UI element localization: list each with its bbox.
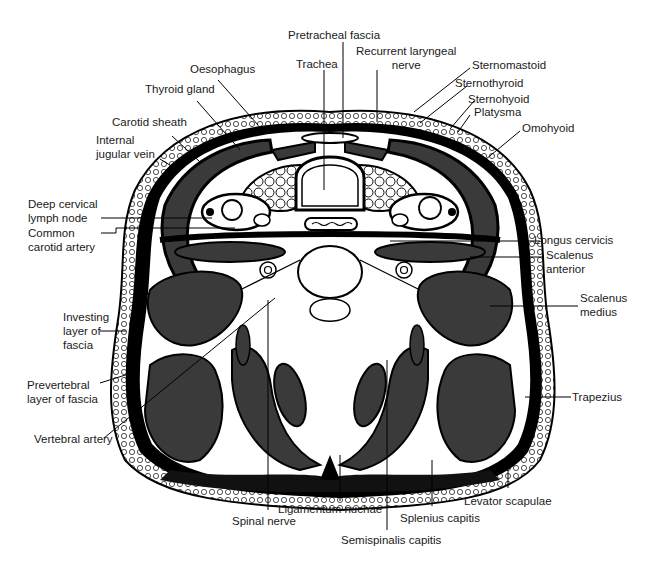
label-prevertebral-layer-of-fascia: Prevertebral layer of fascia xyxy=(27,378,98,406)
label-line: Deep cervical xyxy=(28,197,98,211)
label-line: layer of fascia xyxy=(27,392,98,406)
label-deep-cervical-lymph-node: Deep cervical lymph node xyxy=(28,197,98,225)
label-splenius-capitis: Splenius capitis xyxy=(400,511,480,525)
label-vertebral-artery: Vertebral artery xyxy=(34,432,113,446)
label-line: Investing xyxy=(63,310,109,324)
label-line: nerve xyxy=(356,58,456,72)
label-sternomastoid: Sternomastoid xyxy=(472,58,546,72)
label-pretracheal-fascia: Pretracheal fascia xyxy=(288,28,380,42)
label-internal-jugular-vein: Internal jugular vein xyxy=(96,133,155,161)
label-trapezius: Trapezius xyxy=(572,390,622,404)
label-investing-layer-of-fascia: Investing layer of fascia xyxy=(63,310,109,352)
spinal-cord xyxy=(310,299,350,322)
label-levator-scapulae: Levator scapulae xyxy=(464,494,552,508)
label-line: Recurrent laryngeal xyxy=(356,44,456,58)
label-scalenus-medius: Scalenus medius xyxy=(580,291,627,319)
label-sternohyoid: Sternohyoid xyxy=(468,92,529,106)
label-line: medius xyxy=(580,305,627,319)
label-scalenus-anterior: Scalenus anterior xyxy=(546,248,593,276)
label-common-carotid-artery: Common carotid artery xyxy=(28,226,95,254)
label-line: jugular vein xyxy=(96,147,155,161)
label-thyroid-gland: Thyroid gland xyxy=(145,82,215,96)
label-line: Scalenus xyxy=(580,291,627,305)
label-sternothyroid: Sternothyroid xyxy=(455,76,523,90)
label-line: fascia xyxy=(63,338,109,352)
label-line: carotid artery xyxy=(28,240,95,254)
label-line: layer of xyxy=(63,324,109,338)
label-recurrent-laryngeal-nerve: Recurrent laryngeal nerve xyxy=(356,44,456,72)
neck-cross-section-figure: Pretracheal fascia Recurrent laryngeal n… xyxy=(0,0,657,571)
label-platysma: Platysma xyxy=(474,105,521,119)
label-line: lymph node xyxy=(28,211,98,225)
label-oesophagus: Oesophagus xyxy=(190,62,255,76)
label-line: Scalenus xyxy=(546,248,593,262)
label-carotid-sheath: Carotid sheath xyxy=(112,115,187,129)
label-line: Internal xyxy=(96,133,155,147)
label-line: Prevertebral xyxy=(27,378,98,392)
label-omohyoid: Omohyoid xyxy=(522,121,574,135)
label-longus-cervicis: Longus cervicis xyxy=(534,233,613,247)
vertebral-body xyxy=(298,246,362,298)
label-line: anterior xyxy=(546,262,593,276)
label-semispinalis-capitis: Semispinalis capitis xyxy=(341,533,441,547)
label-line: Common xyxy=(28,226,95,240)
anatomy-drawing xyxy=(0,0,657,571)
label-trachea: Trachea xyxy=(296,57,338,71)
label-spinal-nerve: Spinal nerve xyxy=(232,514,296,528)
